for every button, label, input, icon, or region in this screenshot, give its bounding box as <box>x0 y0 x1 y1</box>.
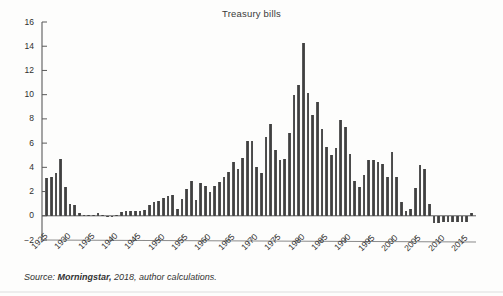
bar <box>307 93 310 215</box>
bar <box>125 211 128 216</box>
bar <box>232 162 235 215</box>
y-tick-label: 16 <box>12 17 34 27</box>
bar <box>279 160 282 216</box>
bar <box>405 211 408 216</box>
bar <box>265 137 268 216</box>
bar <box>260 173 263 215</box>
bar <box>447 216 450 222</box>
y-tick-label: 8 <box>12 113 34 123</box>
bar <box>433 216 436 223</box>
bar <box>353 181 356 216</box>
bar <box>251 141 254 216</box>
source-prefix: Source: <box>24 272 55 282</box>
y-tick-label: 12 <box>12 65 34 75</box>
bar <box>237 169 240 216</box>
bar <box>456 216 459 222</box>
bar <box>157 201 160 216</box>
bar <box>302 43 305 216</box>
bar <box>386 177 389 216</box>
bar <box>218 182 221 216</box>
bar <box>451 216 454 222</box>
bar <box>437 216 440 223</box>
bar <box>409 209 412 216</box>
bar <box>209 192 212 216</box>
bar <box>419 165 422 216</box>
bar <box>461 216 464 222</box>
bar <box>400 202 403 215</box>
bar <box>204 186 207 216</box>
bar <box>120 212 123 216</box>
bar <box>129 211 132 216</box>
bar <box>171 195 174 216</box>
bar <box>50 177 53 216</box>
bar <box>330 155 333 216</box>
bar <box>111 216 114 217</box>
bar <box>367 160 370 216</box>
bar <box>55 173 58 215</box>
bar <box>391 152 394 216</box>
bar <box>115 215 118 216</box>
bar <box>134 211 137 216</box>
bar <box>195 200 198 216</box>
bar <box>139 211 142 216</box>
bar <box>311 115 314 216</box>
y-tick-label: 10 <box>12 89 34 99</box>
bar <box>59 159 62 216</box>
bar <box>101 215 104 216</box>
source-emphasis: Morningstar, <box>58 272 112 282</box>
bar <box>381 164 384 216</box>
y-tick-label: 14 <box>12 41 34 51</box>
bar <box>414 188 417 216</box>
y-tick-label: 6 <box>12 138 34 148</box>
bar <box>153 202 156 215</box>
bar <box>213 186 216 216</box>
bar <box>83 215 86 216</box>
bar <box>339 120 342 216</box>
bar <box>69 204 72 216</box>
bar <box>470 213 473 215</box>
bar <box>176 209 179 216</box>
bar <box>372 160 375 216</box>
bar <box>423 169 426 216</box>
bar <box>255 167 258 215</box>
bar <box>349 154 352 216</box>
source-rest: 2018, author calculations. <box>114 272 217 282</box>
bar <box>325 147 328 216</box>
bar <box>395 177 398 216</box>
bar <box>167 196 170 215</box>
bar <box>87 215 90 216</box>
bar <box>241 158 244 216</box>
bar <box>316 102 319 216</box>
bar <box>223 177 226 216</box>
bar <box>185 189 188 216</box>
bar <box>143 210 146 216</box>
bar <box>92 215 95 216</box>
bar <box>45 178 48 216</box>
bar <box>78 213 81 215</box>
bar <box>428 204 431 216</box>
bar <box>97 213 100 215</box>
bar <box>283 159 286 216</box>
bottom-divider <box>0 291 503 293</box>
bar <box>190 181 193 216</box>
bar <box>148 205 151 216</box>
y-tick-label: 4 <box>12 162 34 172</box>
bar <box>288 133 291 215</box>
bar <box>73 205 76 216</box>
y-tick-label: 0 <box>12 210 34 220</box>
chart-figure: Treasury bills −20246810121416 192519301… <box>0 0 503 296</box>
y-tick-label: 2 <box>12 186 34 196</box>
bar <box>377 162 380 215</box>
bar <box>106 216 109 217</box>
source-note: Source: Morningstar, 2018, author calcul… <box>24 272 217 282</box>
bar <box>344 127 347 215</box>
bar <box>335 148 338 216</box>
bar <box>358 187 361 216</box>
bar <box>162 198 165 216</box>
bar <box>293 95 296 216</box>
bar <box>181 199 184 216</box>
bar <box>246 141 249 216</box>
bar <box>363 175 366 216</box>
bar <box>297 85 300 216</box>
bar <box>465 216 468 222</box>
